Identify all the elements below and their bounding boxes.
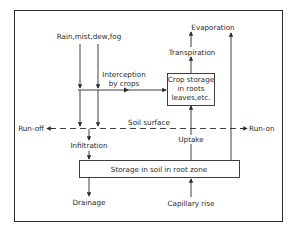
outer-frame — [15, 11, 283, 222]
infiltration-label: Infiltration — [70, 141, 107, 150]
interception-label-1: Interception — [102, 70, 145, 79]
water-balance-diagram: Rain,mist,dew,fog Interception by crops … — [0, 0, 295, 237]
evaporation-label: Evaporation — [191, 23, 234, 32]
precipitation-label: Rain,mist,dew,fog — [57, 32, 122, 41]
capillary-rise-label: Capillary rise — [168, 199, 216, 208]
soil-storage-label: Storage in soil in root zone — [111, 165, 208, 174]
interception-mid-arrow-icon — [124, 88, 129, 93]
crop-storage-label-3: leaves,etc. — [171, 93, 210, 102]
crop-storage-label-1: Crop storage — [168, 75, 215, 84]
interception-label-2: by crops — [109, 79, 140, 88]
run-on-label: Run-on — [249, 124, 274, 133]
uptake-label: Uptake — [178, 135, 204, 144]
transpiration-label: Transpiration — [168, 48, 216, 57]
run-off-label: Run-off — [18, 124, 45, 133]
crop-storage-label-2: in roots — [178, 84, 205, 93]
soil-surface-label: Soil surface — [128, 118, 170, 127]
drainage-label: Drainage — [73, 198, 106, 207]
